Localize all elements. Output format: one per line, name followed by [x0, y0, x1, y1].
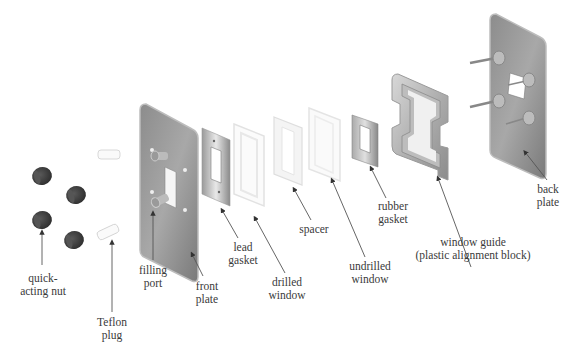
label-drilled-window: drilled window — [263, 276, 311, 302]
label-line: acting nut — [14, 285, 72, 298]
label-line: port — [129, 277, 177, 290]
label-line: drilled — [263, 276, 311, 289]
quick-acting-nuts — [30, 165, 88, 252]
label-window-guide: window guide (plastic alignment block) — [408, 236, 538, 262]
label-line: gasket — [222, 254, 264, 267]
label-line: undrilled — [342, 260, 398, 273]
front-plate — [140, 104, 198, 282]
label-line: front — [187, 280, 227, 293]
label-teflon-plug: Teflon plug — [88, 316, 136, 342]
label-front-plate: front plate — [187, 280, 227, 306]
label-line: spacer — [294, 223, 334, 236]
lead-gasket — [202, 128, 230, 206]
label-line: plate — [528, 196, 568, 209]
label-line: Teflon — [88, 316, 136, 329]
label-line: quick- — [14, 272, 72, 285]
label-filling-port: filling port — [129, 264, 177, 290]
label-line: plug — [88, 329, 136, 342]
label-line: gasket — [370, 213, 416, 226]
label-lead-gasket: lead gasket — [222, 241, 264, 267]
label-line: window guide — [408, 236, 538, 249]
window-guide — [392, 74, 448, 180]
label-line: (plastic alignment block) — [408, 249, 538, 262]
label-line: window — [263, 289, 311, 302]
spacer — [274, 117, 302, 185]
label-undrilled-window: undrilled window — [342, 260, 398, 286]
label-line: rubber — [370, 200, 416, 213]
label-line: window — [342, 273, 398, 286]
teflon-plugs — [96, 150, 120, 241]
label-line: filling — [129, 264, 177, 277]
label-line: plate — [187, 293, 227, 306]
back-plate — [470, 14, 546, 179]
label-line: back — [528, 183, 568, 196]
label-quick-acting-nut: quick- acting nut — [14, 272, 72, 298]
drilled-window — [234, 124, 264, 206]
label-back-plate: back plate — [528, 183, 568, 209]
label-line: lead — [222, 241, 264, 254]
undrilled-window — [309, 108, 340, 181]
label-rubber-gasket: rubber gasket — [370, 200, 416, 226]
label-spacer: spacer — [294, 223, 334, 236]
rubber-gasket — [352, 115, 378, 167]
